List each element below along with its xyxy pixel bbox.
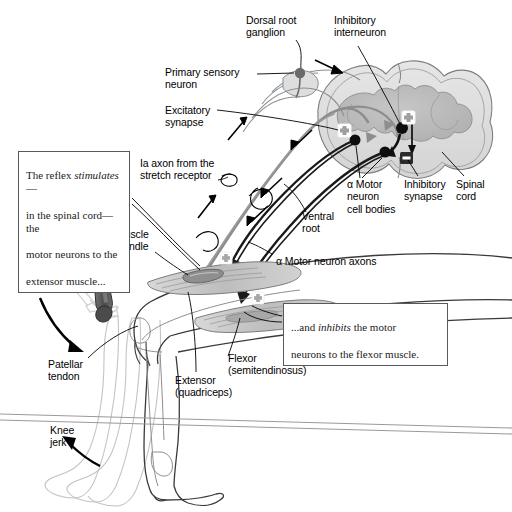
label-patellar-tendon: Patellar tendon (48, 358, 83, 383)
inhibitory-synapse-symbol (400, 152, 413, 164)
callout-inhibits: ...and inhibits the motor neurons to the… (283, 303, 448, 366)
floor-lines (0, 414, 512, 434)
flexor-plus-symbol (252, 292, 264, 304)
callout-stimulates-line2: in the spinal cord—the (26, 209, 113, 234)
excitatory-synapse-symbol-interneuron (402, 111, 415, 124)
spindle-plus-symbol (220, 252, 232, 264)
callout-stimulates-emph: stimulates (74, 169, 119, 181)
callout-inhibits-emph: inhibits (318, 321, 351, 333)
hammer-swing-arrow (40, 298, 84, 352)
label-ia-axon: Ia axon from the stretch receptor (140, 157, 214, 182)
leg-ghost-outlines (45, 316, 161, 506)
callout-stimulates-line4: extensor muscle... (26, 275, 105, 287)
label-alpha-motor-cell-bodies: α Motor neuron cell bodies (347, 178, 396, 215)
callout-inhibits-line1a: ...and (291, 321, 318, 333)
label-inhibitory-interneuron: Inhibitory interneuron (334, 14, 386, 39)
label-excitatory-synapse: Excitatory synapse (165, 104, 210, 129)
label-ventral-root: Ventral root (302, 210, 334, 235)
excitatory-synapse-symbol-extensor (338, 124, 351, 137)
label-knee-jerk: Knee jerk (50, 424, 74, 449)
callout-stimulates: The reflex stimulates— in the spinal cor… (18, 151, 130, 293)
callout-inhibits-line2: neurons to the flexor muscle. (291, 348, 419, 360)
label-inhibitory-synapse: Inhibitory synapse (404, 178, 446, 203)
callout-stimulates-line1b: — (26, 182, 37, 194)
callout-stimulates-line1a: The reflex (26, 169, 74, 181)
label-extensor-quadriceps: Extensor (quadriceps) (175, 374, 232, 399)
callout-inhibits-line1b: the motor (351, 321, 396, 333)
label-spinal-cord: Spinal cord (456, 178, 485, 203)
callout-stimulates-line3: motor neurons to the (26, 248, 117, 260)
figure-canvas: Dorsal root ganglion Inhibitory interneu… (0, 0, 512, 512)
label-alpha-motor-axons: α Motor neuron axons (276, 255, 376, 267)
label-primary-sensory-neuron: Primary sensory neuron (165, 66, 239, 91)
label-dorsal-root-ganglion: Dorsal root ganglion (246, 14, 296, 39)
